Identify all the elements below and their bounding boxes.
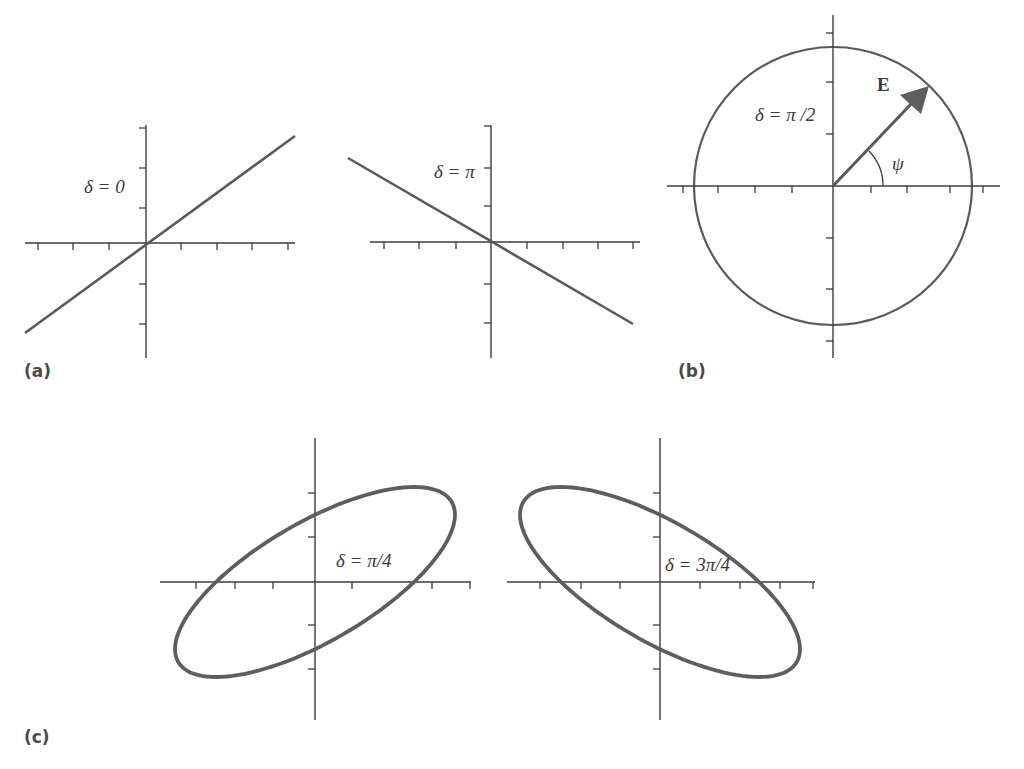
plot-delta-0: δ = 0 [25,125,295,358]
delta-annotation: δ = π /2 [755,104,816,125]
panel-label-c: (c) [24,727,50,747]
delta-annotation: δ = 3π/4 [665,554,730,575]
polarization-figure: δ = 0 δ = π E ψ δ = π /2 [0,0,1024,769]
angle-arc [869,151,883,186]
plot-delta-pi-over-2: E ψ δ = π /2 [667,15,1000,358]
panel-label-a: (a) [24,361,51,381]
delta-annotation: δ = 0 [84,176,125,197]
polarization-diagram: δ = 0 δ = π E ψ δ = π /2 [0,0,1024,769]
panel-label-b: (b) [678,361,706,381]
delta-annotation: δ = π [434,161,475,182]
axis-ticks [540,493,813,669]
axis-ticks [384,126,633,323]
vector-label: E [877,74,890,95]
polarization-line [25,136,295,333]
plot-delta-pi: δ = π [348,125,640,358]
delta-annotation: δ = π/4 [336,550,392,571]
plot-delta-pi-over-4: δ = π/4 [160,438,471,720]
plot-delta-3pi-over-4: δ = 3π/4 [507,438,815,720]
axis-ticks [196,493,470,669]
angle-label: ψ [892,153,905,174]
